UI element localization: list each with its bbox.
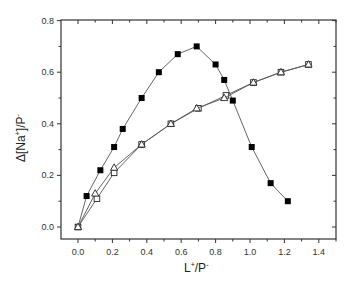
y-tick-label: 0.6 [41,67,54,77]
x-tick-label: 0.2 [106,247,119,257]
square-filled-marker [111,144,117,150]
y-tick-label: 0.2 [41,170,54,180]
y-tick-label: 0.4 [41,119,54,129]
square-filled-marker [175,51,181,57]
square-filled-marker [97,167,103,173]
x-tick-label: 1.2 [278,247,291,257]
x-tick-label: 0.6 [175,247,188,257]
x-tick-label: 1.0 [244,247,257,257]
x-tick-label: 0.4 [141,247,154,257]
y-tick-label: 0.0 [41,222,54,232]
square-filled-marker [249,144,255,150]
square-filled-marker [213,61,219,67]
series-triangle-open [74,61,312,230]
plot-border [61,20,336,239]
x-tick-label: 0.0 [72,247,85,257]
series-line [78,46,288,227]
square-filled-marker [221,77,227,83]
square-filled-marker [230,98,236,104]
x-tick-label: 1.4 [313,247,326,257]
x-axis-label: L+/P- [184,261,209,275]
plot-frame [61,20,336,239]
series-square-open [75,62,311,230]
square-filled-marker [285,198,291,204]
triangle-open-marker [111,164,118,170]
square-filled-marker [120,126,126,132]
axis-ticks: 0.00.20.40.60.81.01.21.40.00.20.40.60.8 [41,16,336,257]
square-filled-marker [156,69,162,75]
series-square-filled [75,43,291,230]
square-filled-marker [268,180,274,186]
x-tick-label: 0.8 [209,247,222,257]
chart: 0.00.20.40.60.81.01.21.40.00.20.40.60.8 … [0,0,349,286]
data-series [74,43,312,230]
square-open-marker [94,196,100,202]
square-filled-marker [139,95,145,101]
square-filled-marker [84,193,90,199]
square-filled-marker [194,43,200,49]
y-tick-label: 0.8 [41,16,54,26]
y-axis-label: Δ[Na+]/P- [14,114,28,162]
